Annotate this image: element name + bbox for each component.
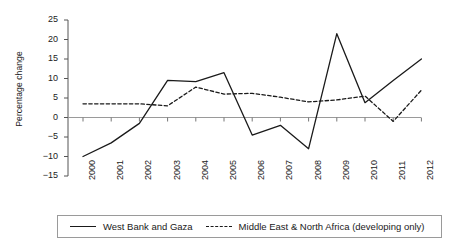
x-axis-tick-label: 2012 [425, 160, 435, 180]
legend-item-west-bank-and-gaza: West Bank and Gaza [70, 221, 193, 232]
legend-label: Middle East & North Africa (developing o… [239, 221, 425, 232]
x-axis-tick-label: 2000 [87, 160, 97, 180]
chart-figure: Percentage change West Bank and Gaza Mid… [0, 0, 450, 247]
legend-swatch-solid-icon [70, 226, 96, 227]
legend-swatch-dashed-icon [206, 226, 232, 227]
legend-label: West Bank and Gaza [103, 221, 193, 232]
series-line-west-bank-and-gaza [83, 34, 421, 157]
y-axis-tick-label: 10 [34, 73, 58, 83]
legend-item-middle-east-north-africa: Middle East & North Africa (developing o… [206, 221, 425, 232]
y-axis-tick-label: 25 [34, 14, 58, 24]
x-axis-tick-label: 2008 [313, 160, 323, 180]
x-axis-tick-label: 2004 [200, 160, 210, 180]
y-axis-tick-label: −10 [34, 151, 58, 161]
y-axis-tick-label: 20 [34, 34, 58, 44]
chart-legend: West Bank and Gaza Middle East & North A… [57, 215, 442, 238]
x-axis-tick-label: 2005 [228, 160, 238, 180]
y-axis-tick-label: −5 [34, 131, 58, 141]
y-axis-title: Percentage change [14, 0, 28, 24]
y-axis-tick-label: 5 [34, 92, 58, 102]
x-axis-tick-label: 2009 [341, 160, 351, 180]
x-axis-tick-label: 2002 [143, 160, 153, 180]
y-axis-tick-label: −15 [34, 170, 58, 180]
x-axis-tick-label: 2006 [256, 160, 266, 180]
line-chart-plot [0, 0, 450, 247]
x-axis-tick-label: 2007 [284, 160, 294, 180]
x-axis-tick-label: 2011 [397, 161, 407, 180]
x-axis-tick-label: 2001 [115, 160, 125, 180]
y-axis-tick-label: 0 [34, 112, 58, 122]
series-line-middle-east-north-africa [83, 87, 421, 121]
x-axis-tick-label: 2003 [172, 160, 182, 180]
x-axis-tick-label: 2010 [369, 160, 379, 180]
y-axis-tick-label: 15 [34, 53, 58, 63]
